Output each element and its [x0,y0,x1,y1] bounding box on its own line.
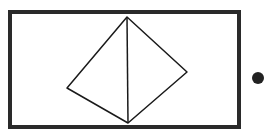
dot-marker [252,72,264,84]
frame-rectangle [10,12,239,127]
diagram-canvas [0,0,275,136]
pyramid-center-edge [127,17,128,123]
